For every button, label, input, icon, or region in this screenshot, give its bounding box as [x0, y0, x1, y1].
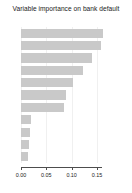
- variable-importance-chart: Variable importance on bank default X9X6…: [0, 0, 132, 193]
- bar-row: [21, 52, 102, 64]
- bar: [21, 90, 66, 99]
- x-tick-mark: [46, 167, 47, 170]
- bar: [21, 41, 101, 50]
- bar-row: [21, 114, 102, 126]
- x-tick-label: 0.10: [61, 172, 83, 178]
- x-axis-line: [21, 167, 102, 168]
- bar: [21, 103, 64, 112]
- plot-area: [21, 27, 102, 163]
- bar-row: [21, 76, 102, 88]
- x-tick-label: 0.15: [86, 172, 108, 178]
- chart-title: Variable importance on bank default: [0, 5, 132, 12]
- bar-row: [21, 89, 102, 101]
- bar-row: [21, 64, 102, 76]
- bar-row: [21, 138, 102, 150]
- x-tick-mark: [21, 167, 22, 170]
- bar: [21, 140, 29, 149]
- bar: [21, 128, 30, 137]
- x-tick-mark: [72, 167, 73, 170]
- bar: [21, 66, 83, 75]
- bar-row: [21, 27, 102, 39]
- bar: [21, 115, 31, 124]
- bar: [21, 29, 103, 38]
- bar: [21, 53, 92, 62]
- bar-row: [21, 101, 102, 113]
- bar-row: [21, 126, 102, 138]
- x-tick-label: 0.00: [10, 172, 32, 178]
- x-tick-mark: [97, 167, 98, 170]
- x-tick-label: 0.05: [35, 172, 57, 178]
- bar: [21, 152, 28, 161]
- bar-row: [21, 151, 102, 163]
- bar-row: [21, 39, 102, 51]
- bar: [21, 78, 73, 87]
